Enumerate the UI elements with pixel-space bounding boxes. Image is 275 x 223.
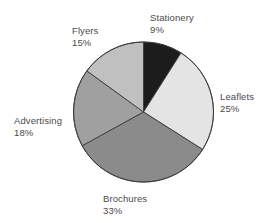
pie-label-advertising-value: 18% (14, 127, 62, 139)
pie-label-leaflets: Leaflets 25% (220, 91, 254, 114)
pie-label-leaflets-value: 25% (220, 103, 254, 115)
pie-label-brochures: Brochures 33% (103, 193, 147, 216)
pie-chart-figure: Stationery 9% Leaflets 25% Brochures 33%… (0, 0, 275, 223)
pie-label-flyers-value: 15% (72, 37, 98, 49)
pie-label-leaflets-name: Leaflets (220, 91, 254, 103)
pie-label-flyers: Flyers 15% (72, 25, 98, 48)
pie-label-advertising-name: Advertising (14, 115, 62, 127)
pie-label-stationery-value: 9% (150, 24, 194, 36)
pie-label-flyers-name: Flyers (72, 25, 98, 37)
pie-label-brochures-name: Brochures (103, 193, 147, 205)
pie-slice-group (74, 42, 214, 182)
pie-label-stationery: Stationery 9% (150, 12, 194, 35)
pie-label-advertising: Advertising 18% (14, 115, 62, 138)
pie-label-brochures-value: 33% (103, 205, 147, 217)
pie-label-stationery-name: Stationery (150, 12, 194, 24)
